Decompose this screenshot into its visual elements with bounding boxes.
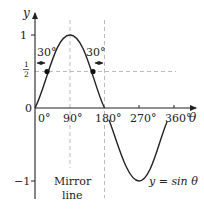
y-tick-label-0: 0: [25, 102, 32, 115]
mirror-line-label-2: line: [62, 189, 83, 202]
angle-label-right: 30°: [86, 46, 106, 59]
point-30deg: [44, 69, 49, 74]
y-tick-label-half-num: 1: [24, 60, 29, 69]
mirror-line-label-1: Mirror: [54, 175, 92, 188]
angle-label-left: 30°: [37, 46, 57, 59]
x-tick-label-360: 360°: [165, 112, 192, 125]
y-tick-label-1: 1: [20, 29, 27, 42]
sine-curve-lower: [109, 120, 167, 181]
sine-graph-svg: y 1 1 2 0 −1 0° 90° 180° 270° 360° θ 30°…: [0, 0, 204, 213]
point-150deg: [90, 69, 95, 74]
curve-label: y = sin θ: [148, 175, 198, 188]
x-tick-label-0: 0°: [38, 112, 51, 125]
x-tick-label-180: 180°: [95, 112, 122, 125]
y-axis-label: y: [22, 6, 30, 20]
y-tick-label-half-den: 2: [24, 70, 29, 79]
x-axis-label: θ: [189, 111, 197, 125]
x-tick-label-270: 270°: [130, 112, 157, 125]
sine-graph-figure: y 1 1 2 0 −1 0° 90° 180° 270° 360° θ 30°…: [0, 0, 204, 213]
y-tick-label-neg1: −1: [14, 175, 30, 188]
x-tick-label-90: 90°: [63, 112, 83, 125]
